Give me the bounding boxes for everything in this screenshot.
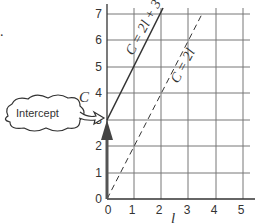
y-tick-2: 2 bbox=[95, 139, 102, 153]
intercept-callout: Intercept bbox=[5, 95, 104, 131]
y-tick-labels: 0 1 2 3 4 5 6 7 bbox=[95, 7, 102, 206]
x-tick-3: 3 bbox=[184, 203, 191, 217]
y-axis-label: C bbox=[79, 89, 90, 105]
intercept-arrow-icon bbox=[101, 120, 113, 199]
y-tick-1: 1 bbox=[95, 166, 102, 180]
x-tick-0: 0 bbox=[105, 203, 112, 217]
y-tick-4: 4 bbox=[95, 86, 102, 100]
x-axis-label: l bbox=[171, 210, 175, 223]
grid bbox=[107, 8, 250, 199]
y-tick-5: 5 bbox=[95, 60, 102, 74]
callout-text: Intercept bbox=[16, 107, 59, 119]
chart: 0 1 2 3 4 5 6 7 0 1 2 3 4 5 C l C = 2l +… bbox=[0, 0, 262, 223]
x-tick-4: 4 bbox=[211, 203, 218, 217]
y-tick-0: 0 bbox=[95, 192, 102, 206]
y-tick-7: 7 bbox=[95, 7, 102, 21]
x-tick-1: 1 bbox=[129, 203, 136, 217]
x-tick-5: 5 bbox=[238, 203, 245, 217]
x-tick-2: 2 bbox=[156, 203, 163, 217]
equation-label-dashed: C = 2l bbox=[167, 46, 198, 86]
y-tick-6: 6 bbox=[95, 33, 102, 47]
stray-text: l. bbox=[0, 24, 3, 39]
